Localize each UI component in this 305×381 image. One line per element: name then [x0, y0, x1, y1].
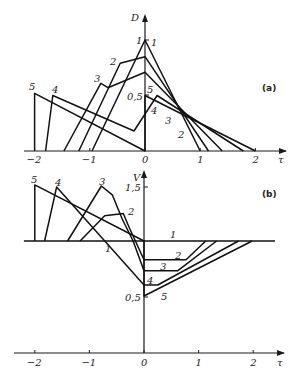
panel-a-chart: −2−1012 D 1 0,5 τ (a) 1 2 3 4 5 5 4 3 2: [24, 12, 287, 165]
tick-label-d-1: 1: [136, 35, 142, 46]
curve-label-b-5-top: 5: [31, 174, 37, 185]
x-tick-label: 1: [196, 357, 202, 368]
curve-label-b-4-top: 4: [54, 177, 61, 188]
x-tick-label: −1: [82, 154, 97, 165]
panel-a-ticks: −2−1012: [27, 40, 259, 165]
curve-label-a-3: 3: [94, 73, 100, 84]
curve-label-b-1-bottom: 1: [105, 243, 111, 254]
figure: −2−1012 D 1 0,5 τ (a) 1 2 3 4 5 5 4 3 2 …: [0, 0, 305, 381]
panel-b-chart: −2−1012 V 1,5 0,5 τ (b) 1 1 2 3 4 5 2 3 …: [14, 170, 285, 368]
panel-b-ticks: −2−1012: [27, 187, 257, 368]
x-tick-label: 0: [142, 154, 149, 165]
curve-label-a-5-right: 5: [147, 84, 153, 95]
panel-label-b: (b): [262, 189, 277, 199]
x-tick-label: 2: [249, 357, 256, 368]
curve-label-a-1: 1: [151, 37, 157, 48]
curve-label-b-4-bottom: 4: [146, 275, 153, 286]
curve-label-b-2-top: 2: [127, 206, 134, 217]
curve-label-a-4: 4: [51, 84, 58, 95]
curve-2: [80, 214, 206, 260]
curve-label-a-4-right: 4: [150, 105, 157, 116]
axis-label-tau-b: τ: [277, 357, 283, 368]
curve-label-b-3-top: 3: [99, 176, 105, 187]
curve-label-a-3-right: 3: [165, 115, 171, 126]
x-tick-label: −2: [27, 357, 42, 368]
curve-4: [45, 187, 239, 285]
curve-label-b-1-top: 1: [170, 229, 176, 240]
axis-label-tau-a: τ: [278, 154, 284, 165]
y-axis-arrow-icon: [142, 14, 148, 22]
curve-3: [68, 186, 217, 271]
curve-label-b-3-bottom: 3: [160, 261, 166, 272]
axis-label-d: D: [130, 12, 139, 23]
curve-label-b-5-bottom: 5: [161, 291, 167, 302]
tick-label-v-15: 1,5: [125, 182, 141, 193]
curve-label-a-2: 2: [109, 56, 116, 67]
x-tick-label: −1: [81, 357, 96, 368]
x-tick-label: 2: [251, 154, 258, 165]
y-axis-arrow-icon: [141, 170, 147, 178]
curve-label-a-2-right: 2: [177, 129, 184, 140]
curve-3: [64, 72, 222, 151]
x-tick-label: 0: [141, 357, 148, 368]
curve-label-b-2-bottom: 2: [174, 250, 181, 261]
panel-label-a: (a): [262, 83, 276, 93]
tick-label-v-05: 0,5: [125, 292, 141, 303]
curve-label-a-5: 5: [29, 81, 35, 92]
x-axis-arrow-icon: [277, 350, 285, 356]
tick-label-d-05: 0,5: [127, 91, 143, 102]
x-tick-label: 1: [197, 154, 203, 165]
x-tick-label: −2: [27, 154, 42, 165]
